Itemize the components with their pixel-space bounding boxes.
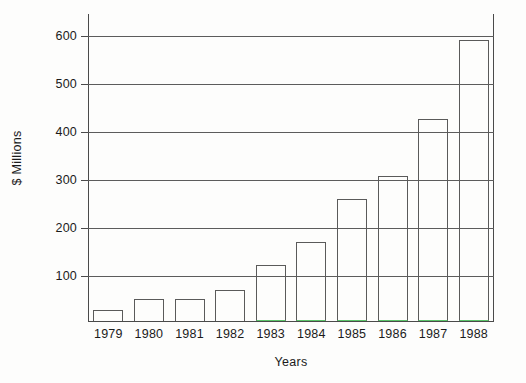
x-tick-label-1985: 1985	[338, 327, 367, 341]
x-tick-label-1984: 1984	[297, 327, 326, 341]
bar-1979	[93, 310, 123, 321]
y-tick-label-400: 400	[56, 125, 77, 139]
y-axis-title: $ Millions	[10, 130, 24, 185]
tick-mark-200	[81, 228, 88, 229]
y-tick-label-100: 100	[56, 269, 77, 283]
bar-1981	[175, 299, 205, 321]
bar-1985	[337, 199, 367, 321]
bar-1983	[256, 265, 286, 321]
bar-1984	[296, 242, 326, 321]
x-tick-label-1980: 1980	[135, 327, 164, 341]
x-tick-label-1986: 1986	[378, 327, 407, 341]
y-tick-label-600: 600	[56, 29, 77, 43]
y-tick-label-200: 200	[56, 221, 77, 235]
tick-mark-400	[81, 132, 88, 133]
bar-1982	[215, 290, 245, 322]
bar-1987	[418, 119, 448, 322]
tick-mark-500	[81, 84, 88, 85]
bar-1980	[134, 299, 164, 322]
x-tick-label-1979: 1979	[94, 327, 123, 341]
x-tick-label-1987: 1987	[419, 327, 448, 341]
tick-mark-600	[81, 36, 88, 37]
bar-1988	[459, 40, 489, 321]
x-tick-label-1988: 1988	[459, 327, 488, 341]
x-axis-title: Years	[274, 355, 307, 369]
x-tick-label-1983: 1983	[256, 327, 285, 341]
x-tick-labels: 1979198019811982198319841985198619871988	[88, 327, 494, 347]
y-tick-label-300: 300	[56, 173, 77, 187]
tick-mark-300	[81, 180, 88, 181]
bars-layer	[88, 14, 494, 322]
x-tick-label-1982: 1982	[216, 327, 245, 341]
tick-mark-100	[81, 276, 88, 277]
bar-chart: $ Millions 600 500 400 300 200 100	[0, 0, 526, 383]
bar-1986	[378, 176, 408, 321]
y-tick-label-500: 500	[56, 77, 77, 91]
plot-area: 600 500 400 300 200 100	[88, 14, 494, 322]
x-tick-label-1981: 1981	[175, 327, 204, 341]
